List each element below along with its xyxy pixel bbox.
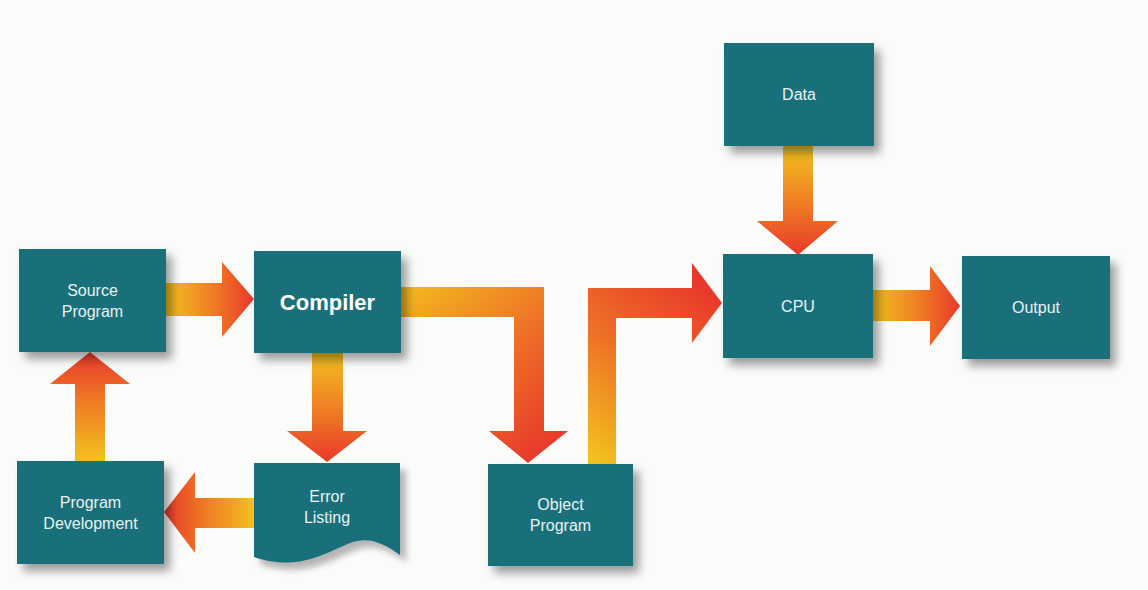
node-label: Object Program bbox=[530, 494, 591, 536]
arrow-compiler-to-object-program bbox=[400, 287, 568, 463]
node-label: Error Listing bbox=[254, 463, 400, 551]
node-program-development[interactable]: Program Development bbox=[17, 461, 164, 564]
arrow-object-program-to-cpu bbox=[588, 263, 722, 464]
node-error-listing[interactable]: Error Listing bbox=[254, 463, 400, 573]
node-output[interactable]: Output bbox=[962, 256, 1110, 359]
arrow-error-listing-to-program-development bbox=[164, 472, 255, 553]
node-data[interactable]: Data bbox=[724, 43, 874, 146]
node-label: Source Program bbox=[62, 280, 123, 322]
arrow-cpu-to-output bbox=[873, 266, 960, 346]
node-label: CPU bbox=[781, 296, 815, 317]
arrow-program-development-to-source bbox=[50, 352, 130, 461]
node-label: Compiler bbox=[280, 292, 375, 313]
arrow-source-to-compiler bbox=[166, 262, 254, 337]
node-label: Data bbox=[782, 84, 816, 105]
arrow-data-to-cpu bbox=[757, 146, 838, 255]
node-object-program[interactable]: Object Program bbox=[488, 464, 633, 566]
node-label: Output bbox=[1012, 297, 1060, 318]
node-source-program[interactable]: Source Program bbox=[19, 249, 166, 352]
node-cpu[interactable]: CPU bbox=[723, 254, 873, 358]
node-compiler[interactable]: Compiler bbox=[254, 251, 401, 353]
node-label: Program Development bbox=[43, 492, 137, 534]
arrow-compiler-to-error-listing bbox=[287, 352, 367, 462]
